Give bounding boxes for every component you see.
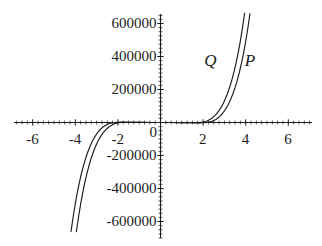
y-tick-label: 400000 (112, 49, 157, 64)
plot-figure: -6-4-20246-600000-400000-200000200000400… (0, 0, 322, 246)
x-tick-label: -6 (26, 132, 39, 147)
y-tick-label: -600000 (107, 214, 157, 229)
plot-canvas (0, 0, 322, 246)
y-tick-label: -400000 (107, 181, 157, 196)
y-tick-label: -200000 (107, 148, 157, 163)
axis-ticks (17, 15, 310, 238)
x-tick-label: 6 (284, 132, 292, 147)
axes (14, 14, 312, 238)
y-tick-label: 600000 (112, 16, 157, 31)
curve-label-q: Q (204, 52, 216, 69)
y-tick-label: 200000 (112, 82, 157, 97)
x-tick-label: -4 (69, 132, 82, 147)
x-tick-label: 2 (199, 132, 207, 147)
x-tick-label: 0 (150, 125, 158, 140)
curve-label-p: P (245, 52, 255, 69)
x-tick-label: -2 (111, 132, 124, 147)
x-tick-label: 4 (242, 132, 250, 147)
